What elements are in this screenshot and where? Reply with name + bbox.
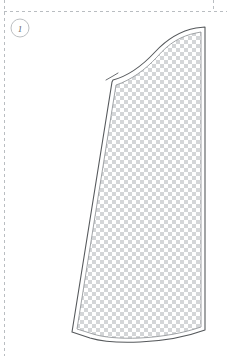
pattern-piece-panel[interactable] <box>72 27 205 342</box>
piece-number-label: 1 <box>18 24 23 34</box>
pattern-canvas: 1 <box>0 0 227 356</box>
pattern-drawing: 1 <box>0 0 227 356</box>
piece-number-badge[interactable]: 1 <box>11 19 29 37</box>
